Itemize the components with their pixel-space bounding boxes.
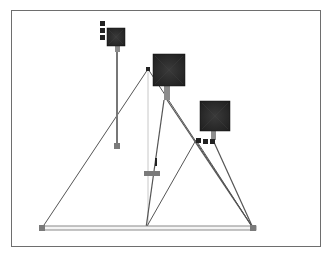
base-beam bbox=[40, 226, 256, 230]
right-base-joint bbox=[250, 225, 256, 231]
weight-left-stem bbox=[115, 46, 120, 52]
inner-triangle-left-edge bbox=[146, 140, 196, 228]
weight-right-marker-2 bbox=[210, 139, 215, 144]
left-base-joint bbox=[39, 225, 45, 231]
main-triangle-left-edge bbox=[42, 69, 148, 228]
weight-left-marker-1 bbox=[100, 28, 105, 33]
weight-left-marker-0 bbox=[100, 21, 105, 26]
weight-right-marker-1 bbox=[203, 139, 208, 144]
slider-block bbox=[144, 171, 160, 176]
slider-indicator bbox=[155, 158, 157, 166]
frame-border bbox=[12, 11, 321, 247]
rod-right-weight bbox=[213, 140, 253, 228]
weight-right-marker-0 bbox=[196, 138, 201, 143]
weight-right-stem bbox=[211, 131, 216, 140]
weight-left-marker-2 bbox=[100, 35, 105, 40]
weight-top-stem bbox=[164, 86, 170, 100]
diagram-canvas bbox=[0, 0, 330, 255]
apex-marker bbox=[146, 67, 150, 71]
weight-left-foot bbox=[114, 143, 120, 149]
